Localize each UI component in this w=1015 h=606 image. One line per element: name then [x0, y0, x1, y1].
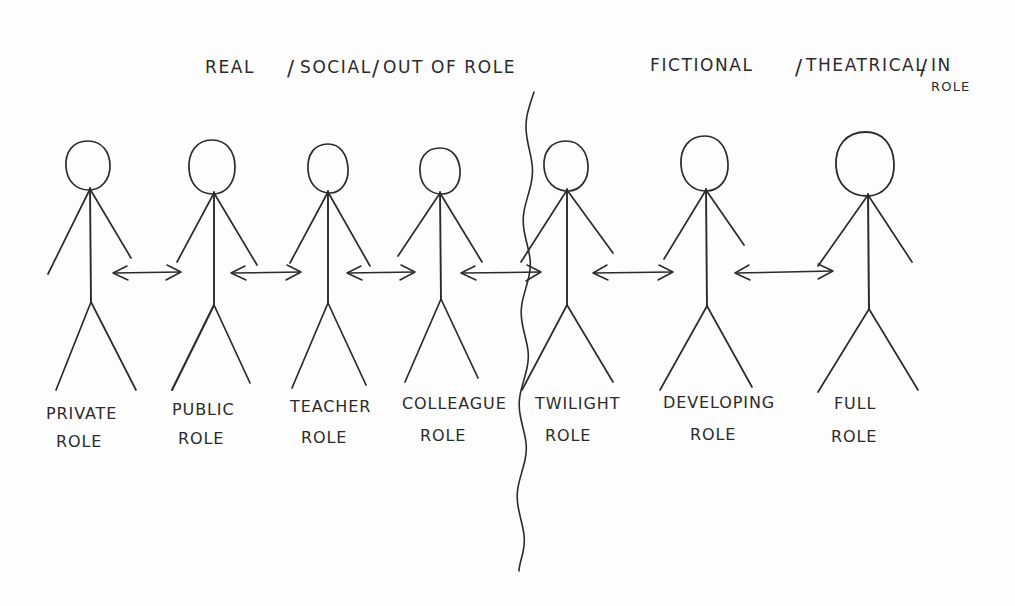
label-teacher-line1: TEACHER [289, 397, 371, 416]
label-colleague-role: COLLEAGUE ROLE [402, 394, 507, 445]
label-teacher-line2: ROLE [301, 428, 347, 447]
header-right-in: IN [931, 55, 952, 75]
wavy-divider [517, 92, 534, 571]
label-colleague-line1: COLLEAGUE [402, 394, 507, 413]
label-full-line1: FULL [834, 394, 876, 413]
label-public-line2: ROLE [178, 429, 224, 448]
role-continuum-diagram: REAL / SOCIAL / OUT OF ROLE FICTIONAL / … [0, 0, 1015, 606]
header-right-fictional: FICTIONAL [650, 55, 754, 75]
label-developing-line1: DEVELOPING [663, 393, 775, 412]
header-right-theatrical: THEATRICAL [805, 55, 926, 75]
header-left-social: SOCIAL [300, 57, 372, 77]
header-right-group: FICTIONAL / THEATRICAL / IN ROLE [650, 55, 971, 94]
stick-figure-teacher-role [290, 144, 370, 388]
label-teacher-role: TEACHER ROLE [289, 397, 371, 447]
label-colleague-line2: ROLE [420, 426, 466, 445]
connector-arrow-1 [113, 265, 181, 280]
diagram-canvas: REAL / SOCIAL / OUT OF ROLE FICTIONAL / … [0, 0, 1015, 606]
stick-figure-colleague-role [398, 148, 482, 382]
label-twilight-line1: TWILIGHT [534, 394, 620, 413]
header-left-out-of-role: OUT OF ROLE [383, 57, 516, 77]
header-right-role: ROLE [931, 79, 971, 94]
label-private-line2: ROLE [56, 432, 102, 451]
stick-figure-private-role [48, 141, 136, 390]
label-public-line1: PUBLIC [172, 400, 235, 419]
header-left-group: REAL / SOCIAL / OUT OF ROLE [205, 57, 516, 81]
label-private-role: PRIVATE ROLE [46, 404, 117, 451]
header-left-real: REAL [205, 57, 255, 77]
label-twilight-role: TWILIGHT ROLE [534, 394, 620, 445]
label-full-role: FULL ROLE [831, 394, 877, 446]
header-right-separator-2: / [920, 56, 928, 80]
header-left-separator-1: / [287, 57, 295, 81]
label-public-role: PUBLIC ROLE [172, 400, 235, 448]
stick-figure-developing-role [660, 136, 752, 390]
stick-figure-public-role [172, 140, 257, 390]
connector-arrow-5 [593, 265, 673, 280]
header-right-separator-1: / [795, 56, 803, 80]
label-full-line2: ROLE [831, 427, 877, 446]
label-twilight-line2: ROLE [545, 426, 591, 445]
label-developing-role: DEVELOPING ROLE [663, 393, 775, 444]
header-left-separator-2: / [372, 57, 380, 81]
stick-figure-full-role [818, 132, 918, 392]
stick-figure-twilight-role [521, 141, 613, 390]
connector-arrow-2 [231, 265, 301, 280]
label-developing-line2: ROLE [690, 425, 736, 444]
label-private-line1: PRIVATE [46, 404, 117, 423]
connector-arrow-3 [347, 265, 415, 280]
